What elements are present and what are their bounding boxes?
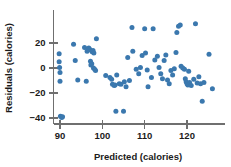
data-point	[157, 65, 162, 70]
data-point	[149, 75, 154, 80]
data-point	[73, 58, 78, 63]
x-axis-tick-labels: 90100110120	[55, 130, 195, 141]
data-point	[57, 65, 62, 70]
data-point	[93, 68, 98, 73]
data-point	[173, 50, 178, 55]
data-point	[84, 79, 89, 84]
y-tick-label-20: 20	[35, 37, 46, 48]
data-point	[91, 51, 96, 56]
x-tick-label-90: 90	[55, 130, 66, 141]
data-point	[124, 84, 129, 89]
data-point	[170, 72, 175, 77]
data-point	[193, 21, 198, 26]
y-tick-label-−40: −40	[29, 112, 45, 123]
data-point	[58, 70, 63, 75]
data-point	[207, 52, 212, 57]
data-point	[122, 79, 127, 84]
data-point	[151, 26, 156, 31]
data-point	[94, 36, 99, 41]
data-points-layer	[57, 21, 215, 120]
y-tick-label-−20: −20	[29, 87, 45, 98]
data-point	[60, 114, 65, 119]
data-point	[125, 55, 130, 60]
data-point	[200, 99, 205, 104]
x-axis-title: Predicted (calories)	[94, 151, 182, 162]
y-axis-tick-labels: 200−20−40	[29, 37, 45, 123]
data-point	[163, 52, 168, 57]
data-point	[114, 72, 119, 77]
data-point	[143, 51, 148, 56]
data-point	[136, 71, 141, 76]
data-point	[191, 77, 196, 82]
data-point	[57, 51, 62, 56]
data-point	[113, 109, 118, 114]
data-point	[75, 77, 80, 82]
data-point	[109, 77, 114, 82]
data-point	[57, 59, 62, 64]
data-point	[178, 22, 183, 27]
scatter-plot-svg: 90100110120 200−20−40 Predicted (calorie…	[0, 0, 231, 167]
data-point	[160, 76, 165, 81]
data-point	[103, 73, 108, 78]
x-tick-label-110: 110	[137, 130, 152, 141]
data-point	[172, 66, 177, 71]
data-point	[186, 69, 191, 74]
data-point	[58, 79, 63, 84]
data-point	[196, 74, 201, 79]
data-point	[146, 84, 151, 89]
data-point	[142, 26, 147, 31]
x-tick-label-100: 100	[94, 130, 110, 141]
data-point	[162, 58, 167, 63]
data-point	[158, 71, 163, 76]
x-tick-label-120: 120	[179, 130, 195, 141]
data-point	[130, 49, 135, 54]
data-point	[201, 80, 206, 85]
data-point	[89, 61, 94, 66]
data-point	[167, 81, 172, 86]
data-point	[129, 25, 134, 30]
data-point	[155, 54, 160, 59]
data-point	[71, 42, 76, 47]
data-point	[121, 109, 126, 114]
y-tick-label-0: 0	[40, 62, 45, 73]
data-point	[189, 83, 194, 88]
data-point	[134, 67, 139, 72]
residual-scatter-figure: 90100110120 200−20−40 Predicted (calorie…	[0, 0, 231, 167]
data-point	[210, 86, 215, 91]
data-point	[127, 78, 132, 83]
y-axis-title: Residuals (calories)	[3, 23, 14, 113]
data-point	[145, 67, 150, 72]
data-point	[174, 30, 179, 35]
data-point	[113, 82, 118, 87]
